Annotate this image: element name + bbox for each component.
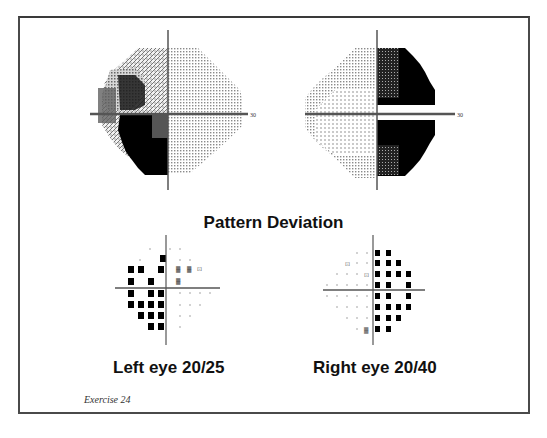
left-eye-pattern-deviation-plot: ▓▓⊡ ▓	[110, 235, 230, 345]
axis-30-label-right: 30	[457, 112, 463, 118]
svg-text:⊡: ⊡	[345, 261, 350, 267]
exercise-caption: Exercise 24	[84, 394, 131, 405]
svg-text:▓: ▓	[176, 278, 181, 285]
svg-text:▓: ▓	[176, 266, 181, 273]
svg-text:▓: ▓	[364, 327, 369, 334]
right-eye-grayscale-plot: 30	[295, 30, 465, 190]
svg-text:⊡: ⊡	[364, 272, 369, 278]
axis-30-label-left: 30	[250, 112, 256, 118]
left-eye-grayscale-plot: 30	[90, 30, 260, 190]
left-eye-label: Left eye 20/25	[113, 358, 225, 378]
svg-text:⊡: ⊡	[197, 266, 202, 272]
right-eye-pattern-deviation-plot: ⊡⊡▓	[320, 235, 440, 345]
svg-text:▓: ▓	[187, 266, 192, 273]
right-eye-label: Right eye 20/40	[313, 358, 437, 378]
pattern-deviation-title: Pattern Deviation	[0, 213, 547, 233]
